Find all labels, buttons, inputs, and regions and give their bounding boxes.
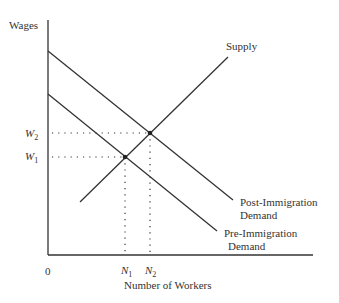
labor-market-diagram: Wages W2 W1 0 N1 N2 Number of Workers Su… xyxy=(0,0,339,303)
origin-label: 0 xyxy=(45,265,51,277)
post-demand-label-line2: Demand xyxy=(240,209,278,221)
post-immigration-demand-curve xyxy=(48,51,233,200)
equilibrium-post xyxy=(148,131,153,136)
y-axis-label: Wages xyxy=(9,19,38,31)
pre-demand-label-line2: Demand xyxy=(228,240,266,252)
supply-label: Supply xyxy=(226,40,258,52)
pre-immigration-demand-curve xyxy=(48,94,217,231)
n2-tick-label: N2 xyxy=(144,264,156,279)
x-axis-label: Number of Workers xyxy=(124,279,212,291)
post-demand-label-line1: Post-Immigration xyxy=(240,196,318,208)
pre-demand-label-line1: Pre-Immigration xyxy=(224,227,298,239)
w2-tick-label: W2 xyxy=(25,127,38,142)
w1-tick-label: W1 xyxy=(25,150,38,165)
n1-tick-label: N1 xyxy=(120,264,132,279)
equilibrium-pre xyxy=(123,155,128,160)
